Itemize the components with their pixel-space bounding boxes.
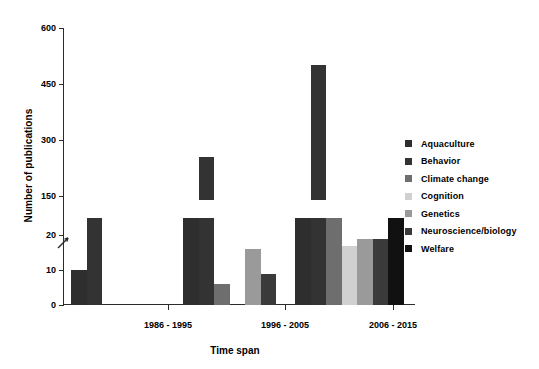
y-tick (59, 28, 64, 29)
bar (342, 246, 358, 305)
x-tick (393, 305, 394, 310)
y-tick (59, 196, 64, 197)
y-tick-label: 300 (41, 135, 56, 145)
plot-area: 01020150300450600 1986 - 19951996 - 2005… (63, 28, 415, 305)
legend-swatch-icon (405, 158, 412, 165)
legend-item-label: Behavior (421, 156, 460, 166)
legend-item-label: Genetics (421, 209, 460, 219)
legend-item[interactable]: Genetics (405, 205, 517, 223)
bar (326, 218, 342, 305)
y-tick (59, 84, 64, 85)
legend-swatch-icon (405, 210, 412, 217)
bar (245, 249, 261, 305)
chart-figure: Number of publications Time span 0102015… (0, 0, 539, 369)
bar (87, 218, 103, 305)
bar (295, 218, 311, 305)
y-tick-label: 10 (46, 265, 56, 275)
x-tick (285, 305, 286, 310)
legend-item-label: Welfare (421, 244, 454, 254)
legend-swatch-icon (405, 245, 412, 252)
x-tick (168, 305, 169, 310)
y-axis-title: Number of publications (23, 66, 34, 266)
bar-upper-segment (199, 157, 215, 200)
bar (388, 218, 404, 305)
legend-item[interactable]: Aquaculture (405, 135, 517, 153)
legend-swatch-icon (405, 175, 412, 182)
y-tick-label: 0 (51, 300, 56, 310)
legend-swatch-icon (405, 140, 412, 147)
legend-item-label: Neuroscience/biology (421, 226, 517, 236)
legend-item[interactable]: Welfare (405, 240, 517, 258)
x-axis-title: Time span (55, 345, 415, 356)
legend-swatch-icon (405, 193, 412, 200)
x-tick-label: 1996 - 2005 (261, 320, 309, 330)
axis-break-icon (56, 236, 72, 250)
x-tick-label: 2006 - 2015 (369, 320, 417, 330)
y-tick-label: 20 (46, 230, 56, 240)
y-tick-label: 600 (41, 23, 56, 33)
bar (373, 239, 389, 305)
y-tick-label: 450 (41, 79, 56, 89)
axis-break-marker (56, 236, 72, 250)
y-tick-label: 150 (41, 191, 56, 201)
legend-item[interactable]: Behavior (405, 153, 517, 171)
chart-legend: AquacultureBehaviorClimate changeCogniti… (405, 135, 517, 258)
legend-item-label: Climate change (421, 174, 489, 184)
bar (357, 239, 373, 305)
bar (199, 218, 215, 305)
y-axis-line (63, 28, 64, 305)
y-tick (59, 305, 64, 306)
bar (261, 274, 277, 305)
legend-item[interactable]: Climate change (405, 170, 517, 188)
legend-item-label: Cognition (421, 191, 464, 201)
bar (71, 270, 87, 305)
y-tick (59, 140, 64, 141)
bar (183, 218, 199, 305)
bar (311, 218, 327, 305)
bar (214, 284, 230, 305)
legend-item[interactable]: Cognition (405, 188, 517, 206)
legend-item-label: Aquaculture (421, 139, 475, 149)
legend-item[interactable]: Neuroscience/biology (405, 223, 517, 241)
y-tick (59, 270, 64, 271)
x-tick-label: 1986 - 1995 (144, 320, 192, 330)
bar-upper-segment (311, 65, 327, 200)
legend-swatch-icon (405, 228, 412, 235)
